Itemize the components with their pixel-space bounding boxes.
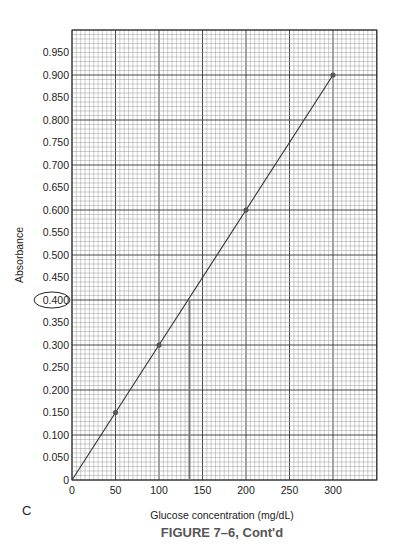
data-point — [243, 207, 248, 212]
x-tick-label: 300 — [324, 484, 342, 496]
x-tick-label: 50 — [110, 484, 122, 496]
y-tick-label: 0.250 — [43, 361, 69, 373]
y-tick-label: 0.950 — [43, 46, 69, 58]
y-axis-label: Absorbance — [13, 227, 25, 283]
y-tick-label: 0.050 — [43, 451, 69, 463]
x-tick-label: 250 — [281, 484, 299, 496]
y-tick-label: 0.650 — [43, 181, 69, 193]
panel-label: C — [22, 503, 31, 518]
y-tick-label: 0.200 — [43, 384, 69, 396]
figure-caption: FIGURE 7–6, Cont'd — [161, 525, 283, 540]
y-tick-label: 0.500 — [43, 249, 69, 261]
y-tick-label: 0.800 — [43, 114, 69, 126]
y-tick-label: 0.150 — [43, 406, 69, 418]
y-tick-label: 0.850 — [43, 91, 69, 103]
y-tick-label: 0.450 — [43, 271, 69, 283]
y-tick-label: 0.900 — [43, 69, 69, 81]
y-tick-label: 0.100 — [43, 429, 69, 441]
data-point — [156, 342, 161, 347]
x-tick-label: 0 — [69, 484, 75, 496]
y-tick-label: 0.300 — [43, 339, 69, 351]
y-tick-label: 0.400 — [43, 294, 69, 306]
data-point — [330, 72, 335, 77]
y-tick-label: 0.750 — [43, 136, 69, 148]
y-tick-label: 0.600 — [43, 204, 69, 216]
y-tick-label: 0.550 — [43, 226, 69, 238]
x-tick-label: 100 — [150, 484, 168, 496]
x-tick-label: 150 — [194, 484, 212, 496]
x-tick-label: 200 — [237, 484, 255, 496]
data-point — [113, 410, 118, 415]
x-axis-label: Glucose concentration (mg/dL) — [150, 509, 294, 521]
calibration-chart: 00.0500.1000.1500.2000.2500.3000.3500.40… — [0, 0, 399, 556]
y-tick-label: 0.700 — [43, 159, 69, 171]
y-tick-label: 0.350 — [43, 316, 69, 328]
